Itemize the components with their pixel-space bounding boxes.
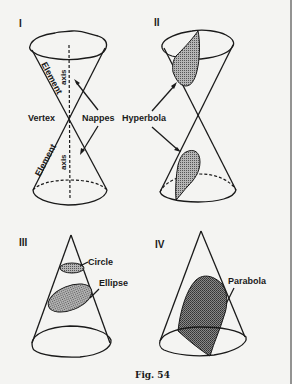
circle-section (60, 263, 84, 273)
element-label-lower: Element (33, 142, 58, 178)
nappes-label: Nappes (82, 113, 115, 123)
parabola-label: Parabola (228, 276, 267, 286)
vertex-label: Vertex (28, 113, 55, 123)
lower-nappe-rim-front (160, 190, 236, 202)
panel-numeral: IV (155, 239, 165, 250)
hyperbola-arrow-down (152, 127, 181, 152)
panel-iii-circle-ellipse: III Circle Ellipse (19, 235, 128, 357)
panel-numeral: III (19, 237, 28, 248)
ellipse-label: Ellipse (99, 278, 128, 288)
figure-caption: Fig. 54 (135, 370, 170, 380)
figure-canvas: I Element Element axis axis Vertex Nappe… (0, 0, 292, 384)
panel-iv-parabola: IV Parabola (155, 231, 267, 356)
hyperbola-lower-branch (176, 150, 200, 200)
nappes-arrow-up (74, 79, 98, 110)
panel-numeral: I (19, 18, 22, 29)
cone-base (32, 326, 111, 357)
axis-label-upper: axis (59, 69, 68, 85)
circle-label: Circle (88, 257, 113, 267)
hyperbola-upper-branch (173, 31, 200, 86)
lower-nappe-rim-back (160, 174, 236, 192)
panel-numeral: II (154, 17, 160, 28)
hyperbola-arrow-up (152, 82, 177, 111)
upper-nappe-rim (30, 31, 107, 60)
nappes-arrow-down (80, 126, 98, 155)
conic-sections-figure: I Element Element axis axis Vertex Nappe… (0, 0, 292, 384)
parabola-section (178, 276, 227, 356)
axis-label-lower: axis (59, 154, 68, 170)
panel-i-double-cone: I Element Element axis axis Vertex Nappe… (19, 18, 115, 205)
panel-ii-hyperbola: II Hyperbola (122, 17, 236, 202)
hyperbola-label: Hyperbola (122, 113, 167, 123)
axis-line (69, 45, 70, 200)
